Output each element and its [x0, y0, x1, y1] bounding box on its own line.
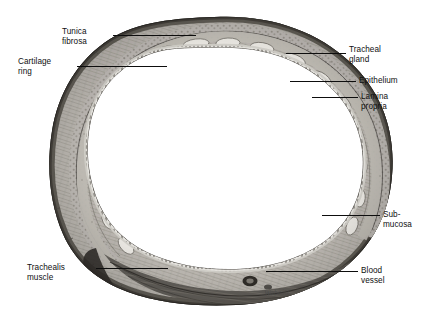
- label-cartilage-ring: Cartilage: [18, 57, 51, 67]
- label-tunica-fibrosa: Tunica: [62, 27, 87, 37]
- label-cartilage-ring-2: ring: [18, 67, 32, 77]
- artist-signature: Wabnitz: [264, 287, 290, 297]
- label-trachealis-muscle: Trachealis: [27, 263, 65, 273]
- label-epithelium: Epithelium: [359, 76, 398, 86]
- label-submucosa-2: mucosa: [383, 220, 412, 230]
- label-blood-vessel: Blood: [361, 266, 382, 276]
- label-submucosa: Sub-: [383, 210, 401, 220]
- label-tunica-fibrosa-2: fibrosa: [62, 37, 87, 47]
- label-lamina-propria-2: propria: [361, 102, 387, 112]
- label-tracheal-gland-2: gland: [349, 55, 369, 65]
- label-blood-vessel-2: vessel: [361, 276, 385, 286]
- label-tracheal-gland: Tracheal: [349, 45, 381, 55]
- label-lamina-propria: Lamina: [361, 92, 388, 102]
- label-trachealis-muscle-2: muscle: [27, 273, 53, 283]
